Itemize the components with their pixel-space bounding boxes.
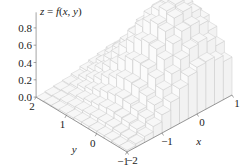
x-tick-label: −1 [161,135,173,147]
y-tick-label: 1 [60,118,66,130]
eq-close-paren: ) [78,5,82,17]
x-tick-label: 0 [199,116,205,128]
z-tick-label: 0.6 [18,39,32,51]
z-tick-label: 0.2 [18,74,32,86]
bar-face-y [206,57,215,109]
eq-equals: = [44,5,56,17]
y-tick-label: 0 [90,137,96,149]
bar-face-y [188,72,197,119]
z-tick-label: 0.4 [18,57,32,69]
chart-title-equation: z = f(x, y) [40,5,82,17]
y-axis-title: y [71,143,77,155]
bar-face-y [180,84,189,123]
x-axis-title: x [195,135,201,147]
bar-face-y [223,57,232,100]
y-tick-label: 2 [29,100,35,112]
bar-chart-3d: 0.00.20.40.60.8210−1y−2−101x [0,0,240,168]
z-tick-label: 0.8 [18,22,32,34]
bars-group [36,0,232,152]
x-tick-label: −2 [126,154,138,166]
bar-face-y [197,63,206,114]
eq-args: x, y [63,5,78,17]
x-tick-label: 1 [234,97,240,109]
bar-face-y [215,56,224,105]
bar-face-y [171,98,180,129]
